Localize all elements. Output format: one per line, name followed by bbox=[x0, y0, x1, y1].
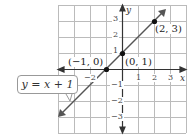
x-tick-1: 1 bbox=[135, 74, 142, 82]
y-axis-label: y bbox=[126, 6, 131, 15]
y-tick-minus-3: −3 bbox=[110, 113, 124, 121]
equation-callout: y = x + 1 bbox=[17, 75, 78, 94]
y-tick-minus-1: −1 bbox=[110, 81, 124, 89]
y-tick-minus-2: −2 bbox=[110, 97, 124, 105]
y-tick-2: 2 bbox=[112, 31, 119, 39]
point-label-neg1-0: (−1, 0) bbox=[68, 57, 103, 67]
x-tick-3: 3 bbox=[167, 74, 174, 82]
x-tick-minus-2: −2 bbox=[83, 74, 97, 82]
point-label-0-1: (0, 1) bbox=[125, 57, 152, 67]
x-axis-label: x bbox=[180, 74, 185, 83]
callout-tail bbox=[66, 94, 72, 101]
coordinate-plane bbox=[0, 0, 196, 138]
y-tick-1: 1 bbox=[112, 47, 119, 55]
y-tick-3: 3 bbox=[112, 15, 119, 23]
x-tick-2: 2 bbox=[151, 74, 158, 82]
point-label-2-3: (2, 3) bbox=[155, 24, 182, 34]
